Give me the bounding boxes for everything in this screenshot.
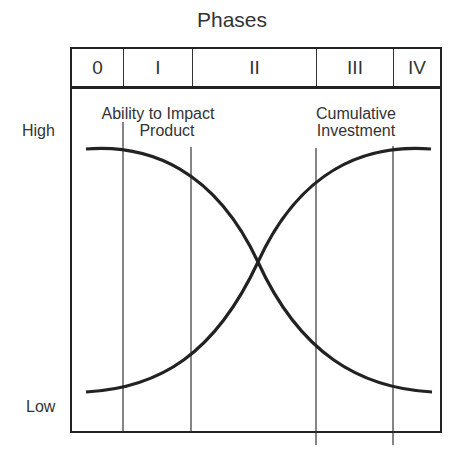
ability-to-impact-curve <box>86 148 432 392</box>
ability-label-line2: Product <box>88 122 228 139</box>
plot-area <box>0 0 464 459</box>
investment-label-line2: Investment <box>296 122 416 139</box>
investment-label-line1: Cumulative <box>296 105 416 122</box>
cumulative-investment-curve <box>86 148 431 392</box>
ability-label-line1: Ability to Impact <box>88 105 228 122</box>
cumulative-investment-label: Cumulative Investment <box>296 105 416 139</box>
y-axis-high-label: High <box>22 122 55 140</box>
y-axis-low-label: Low <box>26 398 55 416</box>
ability-to-impact-label: Ability to Impact Product <box>88 105 228 139</box>
